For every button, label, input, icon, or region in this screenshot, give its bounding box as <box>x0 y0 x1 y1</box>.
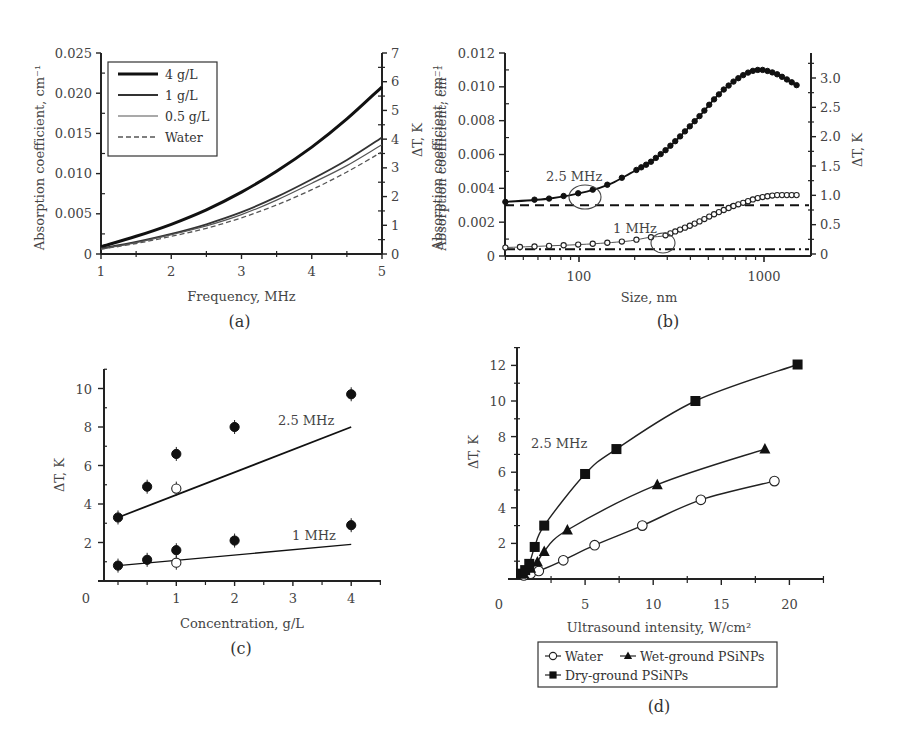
filled-circle-marker <box>707 102 712 107</box>
x-tick-label: 4 <box>347 591 355 606</box>
x-axis-title: Size, nm <box>621 290 678 305</box>
filled-circle-marker <box>619 175 624 180</box>
filled-circle-marker <box>532 197 537 202</box>
panel-d-chart: 2468101205101520Ultrasound intensity, W/… <box>466 348 823 716</box>
figure-canvas: 00.0050.0100.0150.0200.0250123456712345F… <box>0 0 899 750</box>
y-tick-label: 6 <box>498 465 506 480</box>
open-circle-marker <box>559 556 569 566</box>
y2-tick-label: 3.0 <box>820 71 841 86</box>
x-tick-label: 3 <box>237 264 245 279</box>
y-tick-label: 0.020 <box>55 86 92 101</box>
legend-label: Water <box>565 649 603 664</box>
open-circle-marker <box>590 540 600 550</box>
filled-circle-marker <box>697 113 702 118</box>
open-circle-marker <box>561 243 566 248</box>
fit-line-5 <box>118 544 351 565</box>
legend-label: 1 g/L <box>165 88 197 103</box>
panel-c-chart: 24681001234Concentration, g/LΔT, K(c)2.5… <box>52 369 381 658</box>
x-tick-label: 1000 <box>747 269 780 284</box>
annotation-2.5mhz: 2.5 MHz <box>278 413 334 428</box>
x-tick-label: 3 <box>289 591 297 606</box>
y-tick-label: 0 <box>84 247 92 262</box>
filled-circle-marker <box>546 196 551 201</box>
y-tick-label: 2 <box>498 536 506 551</box>
filled-square-marker <box>539 521 549 531</box>
filled-circle-marker <box>230 422 239 431</box>
y2-tick-label: 6 <box>391 74 399 89</box>
open-circle-marker <box>755 195 760 200</box>
y2-tick-label: 2.0 <box>820 129 841 144</box>
filled-circle-marker <box>687 124 692 129</box>
filled-circle-marker <box>663 147 668 152</box>
y2-axis-title: ΔT, K <box>410 123 425 157</box>
y-tick-label: 4 <box>84 497 92 512</box>
open-circle-marker <box>517 244 522 249</box>
open-circle-marker <box>549 652 556 659</box>
y-tick-label: 0.012 <box>458 46 495 61</box>
y-tick-label: 10 <box>75 382 92 397</box>
open-circle-marker <box>638 521 648 531</box>
series-line-2 <box>517 365 798 580</box>
y-tick-label: 2 <box>84 536 92 551</box>
y-tick-label: 0.006 <box>458 147 495 162</box>
fit-line-2 <box>118 427 351 517</box>
open-circle-marker <box>532 244 537 249</box>
filled-circle-marker <box>677 134 682 139</box>
filled-circle-marker <box>113 513 122 522</box>
y2-tick-label: 1.5 <box>820 159 841 174</box>
filled-circle-marker <box>143 482 152 491</box>
filled-circle-marker <box>726 83 731 88</box>
x-tick-label: 5 <box>378 264 386 279</box>
y2-tick-label: 3 <box>391 160 399 175</box>
x-axis-title: Concentration, g/L <box>180 616 304 631</box>
x-tick-label-origin: 0 <box>82 591 90 606</box>
annotation-1mhz: 1 MHz <box>292 528 336 543</box>
filled-circle-marker <box>673 139 678 144</box>
panel-b-chart: 00.0020.0040.0060.0080.0100.01200.51.01.… <box>434 46 865 332</box>
y-axis-title: Absorption coefficient, cm⁻¹ <box>32 65 47 251</box>
y-tick-label: 10 <box>489 394 506 409</box>
filled-square-marker <box>793 360 803 370</box>
y2-axis-title: ΔT, K <box>850 133 865 167</box>
open-circle-marker <box>634 237 639 242</box>
filled-circle-marker <box>716 92 721 97</box>
filled-circle-marker <box>721 87 726 92</box>
filled-circle-marker <box>113 561 122 570</box>
y2-tick-label: 0 <box>820 247 828 262</box>
filled-circle-marker <box>230 536 239 545</box>
filled-circle-marker <box>347 521 356 530</box>
y-tick-label: 0.002 <box>458 215 495 230</box>
annotation-2.5mhz: 2.5 MHz <box>531 436 587 451</box>
filled-square-marker <box>524 559 534 569</box>
filled-circle-marker <box>653 155 658 160</box>
series-line-0 <box>517 481 774 579</box>
y-tick-label: 4 <box>498 501 506 516</box>
filled-circle-marker <box>711 97 716 102</box>
legend-label: Wet-ground PSiNPs <box>640 649 764 664</box>
y-tick-label: 0.010 <box>55 166 92 181</box>
y2-tick-label: 7 <box>391 46 399 61</box>
x-tick-label: 2 <box>167 264 175 279</box>
panel-label: (c) <box>230 639 251 658</box>
filled-circle-marker <box>172 449 181 458</box>
open-circle-marker <box>546 243 551 248</box>
open-circle-marker <box>534 566 544 576</box>
y-tick-label: 0.004 <box>458 181 495 196</box>
filled-circle-marker <box>605 182 610 187</box>
y-tick-label: 12 <box>489 358 506 373</box>
open-circle-marker <box>172 484 181 493</box>
open-circle-marker <box>576 242 581 247</box>
annotation-2.5mhz: 2.5 MHz <box>546 169 602 184</box>
panel-a-chart: 00.0050.0100.0150.0200.0250123456712345F… <box>32 46 445 332</box>
x-axis-title: Ultrasound intensity, W/cm² <box>567 620 751 635</box>
series-line-1 <box>517 449 765 579</box>
filled-square-marker <box>530 542 540 552</box>
x-axis-title: Frequency, MHz <box>187 289 295 304</box>
x-tick-label: 10 <box>645 597 662 612</box>
panel-label: (d) <box>648 697 671 716</box>
filled-triangle-marker <box>759 443 770 454</box>
y2-tick-label: 5 <box>391 103 399 118</box>
y-axis-title: ΔT, K <box>52 458 67 492</box>
panel-label: (b) <box>657 312 680 331</box>
open-circle-marker <box>770 476 780 486</box>
